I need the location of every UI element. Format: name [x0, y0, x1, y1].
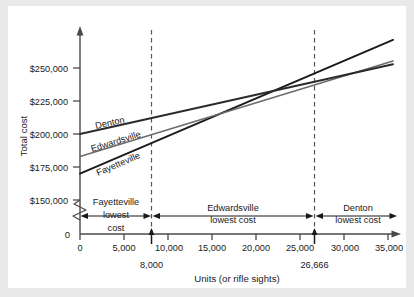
- callout-label-8000: 8,000: [140, 260, 163, 270]
- region-label-edwardsville-line2: lowest cost: [210, 215, 256, 225]
- chart-figure: $250,000 $225,000 $200,000 $175,000 $150…: [0, 0, 414, 297]
- region-label-denton-line2: lowest cost: [335, 215, 381, 225]
- y-tick-label-250000: $250,000: [30, 64, 68, 74]
- region-label-edwardsville-line1: Edwardsville: [207, 203, 259, 213]
- y-origin-label: 0: [65, 229, 70, 240]
- crossover-axis-markers: [149, 228, 318, 244]
- series-line-denton: [80, 64, 393, 134]
- x-axis-title: Units (or rifle sights): [194, 273, 279, 284]
- axis-marker-26666: [312, 228, 318, 244]
- region-label-fayetteville-line2: lowest: [103, 210, 129, 220]
- x-tick-label-25000: 25,000: [286, 243, 314, 253]
- y-tick-label-175000: $175,000: [30, 163, 68, 173]
- region-label-denton: Denton lowest cost: [335, 203, 381, 225]
- region-label-denton-line1: Denton: [343, 203, 373, 213]
- region-label-fayetteville-line3: cost: [108, 223, 125, 233]
- x-tick-label-15000: 15,000: [198, 243, 226, 253]
- series-line-fayetteville: [80, 40, 393, 174]
- series-label-denton: Denton: [94, 115, 125, 131]
- region-label-fayetteville: Fayetteville lowest cost: [93, 197, 139, 233]
- x-tick-label-0: 0: [77, 243, 82, 253]
- y-tick-label-200000: $200,000: [30, 130, 68, 140]
- chart-plot-card: $250,000 $225,000 $200,000 $175,000 $150…: [8, 6, 406, 288]
- region-label-fayetteville-line1: Fayetteville: [93, 197, 139, 207]
- x-axis-ticks: [80, 234, 388, 240]
- x-tick-label-10000: 10,000: [155, 243, 183, 253]
- region-label-edwardsville: Edwardsville lowest cost: [207, 203, 259, 225]
- cost-comparison-line-chart: $250,000 $225,000 $200,000 $175,000 $150…: [8, 6, 406, 288]
- x-tick-label-20000: 20,000: [242, 243, 270, 253]
- y-axis-title: Total cost: [18, 115, 29, 156]
- x-axis: [80, 231, 401, 238]
- x-tick-label-35000: 35,000: [375, 243, 403, 253]
- y-tick-label-150000: $150,000: [30, 196, 68, 206]
- callout-label-26666: 26,666: [300, 260, 328, 270]
- axis-marker-8000: [149, 228, 155, 244]
- x-tick-label-5000: 5,000: [113, 243, 136, 253]
- y-tick-label-225000: $225,000: [30, 97, 68, 107]
- x-tick-label-30000: 30,000: [331, 243, 359, 253]
- y-axis-ticks: [73, 68, 80, 200]
- y-axis: [77, 26, 84, 234]
